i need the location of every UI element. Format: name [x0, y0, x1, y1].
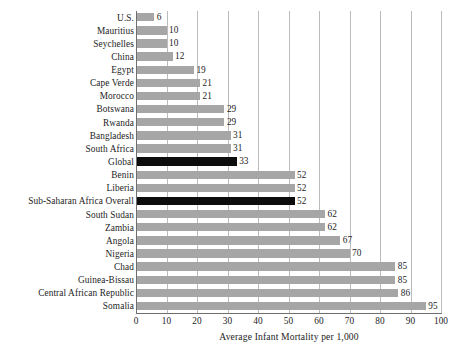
- bar-value-label: 52: [297, 183, 306, 193]
- bar-value-label: 52: [297, 170, 306, 180]
- bar-default: [137, 262, 395, 270]
- bar-value-label: 31: [233, 143, 242, 153]
- bar-default: [137, 92, 200, 100]
- bar-row: U.S.6: [0, 11, 452, 24]
- bar-value-label: 86: [401, 288, 410, 298]
- category-label: Morocco: [0, 91, 134, 101]
- category-label: Bangladesh: [0, 131, 134, 141]
- category-label: Nigeria: [0, 249, 134, 259]
- bar-default: [137, 13, 154, 21]
- bar-value-label: 85: [398, 261, 407, 271]
- bar-row: South Africa31: [0, 142, 452, 155]
- bar-default: [137, 249, 350, 257]
- bar-default: [137, 223, 325, 231]
- category-label: Zambia: [0, 223, 134, 233]
- bar-value-label: 70: [352, 248, 361, 258]
- bar-default: [137, 236, 340, 244]
- bar-default: [137, 131, 231, 139]
- category-label: Liberia: [0, 183, 134, 193]
- bar-value-label: 10: [169, 25, 178, 35]
- category-label: Seychelles: [0, 39, 134, 49]
- bar-row: Morocco21: [0, 90, 452, 103]
- category-label: China: [0, 52, 134, 62]
- bar-default: [137, 52, 173, 60]
- bar-row: Nigeria70: [0, 247, 452, 260]
- bar-value-label: 95: [428, 301, 437, 311]
- bar-value-label: 19: [196, 65, 205, 75]
- bar-default: [137, 79, 200, 87]
- bar-value-label: 33: [239, 156, 248, 166]
- bar-row: Angola67: [0, 234, 452, 247]
- bar-default: [137, 118, 224, 126]
- bar-row: Liberia52: [0, 182, 452, 195]
- bar-value-label: 67: [343, 235, 352, 245]
- infant-mortality-bar-chart: U.S.6Mauritius10Seychelles10China12Egypt…: [0, 0, 452, 356]
- x-tick-label: 100: [421, 316, 452, 327]
- bar-row: Guinea-Bissau85: [0, 274, 452, 287]
- bar-highlight: [137, 157, 237, 165]
- bar-default: [137, 105, 224, 113]
- bar-default: [137, 289, 398, 297]
- bar-value-label: 21: [203, 78, 212, 88]
- bar-row: South Sudan62: [0, 208, 452, 221]
- x-axis-title: Average Infant Mortality per 1,000: [136, 331, 442, 343]
- category-label: South Africa: [0, 144, 134, 154]
- bar-value-label: 62: [328, 222, 337, 232]
- bar-row: Cape Verde21: [0, 77, 452, 90]
- category-label: Botswana: [0, 104, 134, 114]
- bar-value-label: 12: [175, 51, 184, 61]
- bar-row: Rwanda29: [0, 116, 452, 129]
- bar-row: Somalia95: [0, 300, 452, 313]
- x-axis-line: [136, 313, 442, 314]
- bar-default: [137, 276, 395, 284]
- bar-default: [137, 184, 295, 192]
- bar-default: [137, 210, 325, 218]
- bar-row: Egypt19: [0, 64, 452, 77]
- category-label: U.S.: [0, 13, 134, 23]
- category-label: Rwanda: [0, 118, 134, 128]
- bar-value-label: 21: [203, 91, 212, 101]
- category-label: Central African Republic: [0, 288, 134, 298]
- bar-row: Benin52: [0, 169, 452, 182]
- bar-value-label: 31: [233, 130, 242, 140]
- bar-row: Bangladesh31: [0, 129, 452, 142]
- bar-default: [137, 26, 167, 34]
- bar-rows: U.S.6Mauritius10Seychelles10China12Egypt…: [0, 11, 452, 313]
- category-label: Benin: [0, 170, 134, 180]
- bar-value-label: 10: [169, 38, 178, 48]
- category-label: Mauritius: [0, 26, 134, 36]
- bar-row: Mauritius10: [0, 24, 452, 37]
- category-label: Guinea-Bissau: [0, 275, 134, 285]
- bar-value-label: 62: [328, 209, 337, 219]
- category-label: South Sudan: [0, 210, 134, 220]
- bar-value-label: 29: [227, 117, 236, 127]
- category-label: Egypt: [0, 65, 134, 75]
- category-label: Chad: [0, 262, 134, 272]
- category-label: Angola: [0, 236, 134, 246]
- bar-default: [137, 144, 231, 152]
- bar-row: Global33: [0, 155, 452, 168]
- bar-row: Sub-Saharan Africa Overall52: [0, 195, 452, 208]
- bar-default: [137, 39, 167, 47]
- category-label: Sub-Saharan Africa Overall: [0, 196, 134, 206]
- bar-row: Central African Republic86: [0, 287, 452, 300]
- bar-value-label: 85: [398, 275, 407, 285]
- bar-row: Botswana29: [0, 103, 452, 116]
- category-label: Somalia: [0, 301, 134, 311]
- category-label: Global: [0, 157, 134, 167]
- bar-default: [137, 171, 295, 179]
- bar-value-label: 29: [227, 104, 236, 114]
- category-label: Cape Verde: [0, 78, 134, 88]
- bar-row: China12: [0, 50, 452, 63]
- bar-row: Zambia62: [0, 221, 452, 234]
- bar-default: [137, 302, 426, 310]
- bar-row: Chad85: [0, 260, 452, 273]
- bar-highlight: [137, 197, 295, 205]
- bar-default: [137, 66, 194, 74]
- bar-row: Seychelles10: [0, 37, 452, 50]
- bar-value-label: 6: [157, 12, 162, 22]
- bar-value-label: 52: [297, 196, 306, 206]
